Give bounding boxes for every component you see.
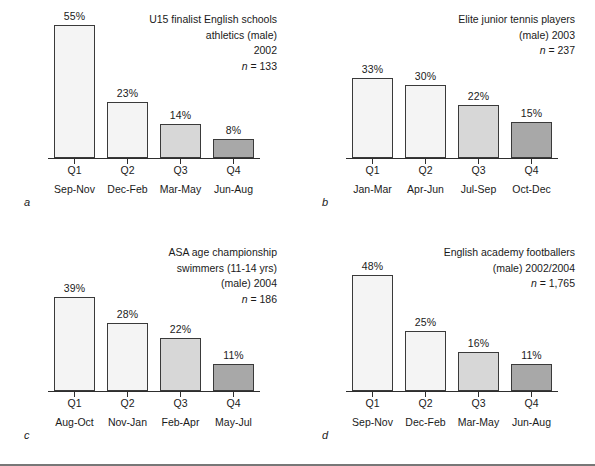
sample-size-symbol: n	[540, 44, 546, 56]
x-axis-label-group: Q1Sep-Nov	[48, 164, 101, 196]
bar	[160, 338, 201, 391]
x-axis-month-label: Mar-May	[154, 183, 207, 196]
bar-slot: 55%	[48, 14, 101, 158]
x-axis-c	[48, 391, 260, 392]
caption-line: (male) 2003	[397, 28, 575, 44]
bar	[458, 352, 499, 391]
x-axis-month-label: Aug-Oct	[48, 416, 101, 429]
x-axis-label-group: Q1Jan-Mar	[346, 164, 399, 196]
sample-size-label: n = 237	[397, 43, 575, 59]
x-axis-month-label: Apr-Jun	[399, 183, 452, 196]
bar-value-label: 16%	[452, 337, 505, 349]
panel-a: 55%23%14%8% Q1Sep-NovQ2Dec-FebQ3Mar-MayQ…	[0, 0, 297, 233]
x-axis-quarter-label: Q3	[452, 164, 505, 177]
bar-slot: 39%	[48, 247, 101, 391]
bar-value-label: 39%	[48, 282, 101, 294]
x-axis-month-label: Dec-Feb	[399, 416, 452, 429]
bar-value-label: 48%	[346, 260, 399, 272]
x-axis-quarter-label: Q2	[399, 164, 452, 177]
panel-caption-b: Elite junior tennis players(male) 2003n …	[397, 12, 575, 59]
bar	[54, 297, 95, 391]
bar-value-label: 11%	[505, 349, 558, 361]
x-axis-label-group: Q3Feb-Apr	[154, 397, 207, 429]
x-axis-month-label: Jun-Aug	[207, 183, 260, 196]
sample-size-symbol: n	[242, 60, 248, 72]
x-axis-month-label: Feb-Apr	[154, 416, 207, 429]
x-axis-label-group: Q2Dec-Feb	[399, 397, 452, 429]
bar	[213, 139, 254, 158]
x-axis-quarter-label: Q4	[505, 397, 558, 410]
x-axis-quarter-label: Q2	[101, 164, 154, 177]
bar	[107, 102, 148, 158]
bar-value-label: 28%	[101, 308, 154, 320]
bar-value-label: 22%	[452, 90, 505, 102]
x-axis-quarter-label: Q1	[48, 397, 101, 410]
caption-line: swimmers (11-14 yrs)	[99, 261, 277, 277]
x-axis-quarter-label: Q3	[452, 397, 505, 410]
x-axis-quarter-label: Q2	[101, 397, 154, 410]
x-axis-label-group: Q1Sep-Nov	[346, 397, 399, 429]
bar-value-label: 30%	[399, 70, 452, 82]
x-axis-label-group: Q1Aug-Oct	[48, 397, 101, 429]
x-axis-quarter-label: Q4	[207, 164, 260, 177]
bar-slot: 48%	[346, 247, 399, 391]
x-axis-month-label: Sep-Nov	[346, 416, 399, 429]
panel-b: 33%30%22%15% Q1Jan-MarQ2Apr-JunQ3Jul-Sep…	[298, 0, 595, 233]
bar	[511, 364, 552, 391]
bar	[352, 275, 393, 391]
bar	[213, 364, 254, 391]
x-axis-month-label: Jun-Aug	[505, 416, 558, 429]
caption-line: 2002	[99, 43, 277, 59]
sample-size-symbol: n	[531, 277, 537, 289]
sample-size-label: n = 1,765	[397, 276, 575, 292]
x-axis-month-label: May-Jul	[207, 416, 260, 429]
bar-value-label: 11%	[207, 349, 260, 361]
panel-letter-b: b	[322, 196, 328, 208]
bar-value-label: 15%	[505, 107, 558, 119]
panel-d: 48%25%16%11% Q1Sep-NovQ2Dec-FebQ3Mar-May…	[298, 233, 595, 466]
caption-line: English academy footballers	[397, 245, 575, 261]
x-axis-label-group: Q3Jul-Sep	[452, 164, 505, 196]
sample-size-label: n = 186	[99, 292, 277, 308]
bar	[405, 85, 446, 158]
bar	[405, 331, 446, 391]
x-axis-quarter-label: Q1	[48, 164, 101, 177]
sample-size-symbol: n	[242, 293, 248, 305]
x-axis-quarter-label: Q1	[346, 164, 399, 177]
panel-caption-a: U15 finalist English schoolsathletics (m…	[99, 12, 277, 74]
x-axis-label-group: Q3Mar-May	[154, 164, 207, 196]
x-axis-label-group: Q2Nov-Jan	[101, 397, 154, 429]
bar	[54, 25, 95, 158]
x-axis-quarter-label: Q1	[346, 397, 399, 410]
x-axis-month-label: Dec-Feb	[101, 183, 154, 196]
x-axis-quarter-label: Q2	[399, 397, 452, 410]
caption-line: Elite junior tennis players	[397, 12, 575, 28]
bar-value-label: 25%	[399, 316, 452, 328]
bar	[107, 323, 148, 391]
bar-value-label: 14%	[154, 109, 207, 121]
x-axis-month-label: Jan-Mar	[346, 183, 399, 196]
x-axis-d	[346, 391, 558, 392]
caption-line: athletics (male)	[99, 28, 277, 44]
x-axis-a	[48, 158, 260, 159]
x-axis-month-label: Mar-May	[452, 416, 505, 429]
bar-value-label: 22%	[154, 323, 207, 335]
x-axis-month-label: Sep-Nov	[48, 183, 101, 196]
x-axis-quarter-label: Q4	[505, 164, 558, 177]
caption-line: U15 finalist English schools	[99, 12, 277, 28]
x-axis-labels-b: Q1Jan-MarQ2Apr-JunQ3Jul-SepQ4Oct-Dec	[346, 164, 558, 210]
caption-line: (male) 2002/2004	[397, 261, 575, 277]
bar-slot: 33%	[346, 14, 399, 158]
x-axis-month-label: Nov-Jan	[101, 416, 154, 429]
x-axis-label-group: Q2Apr-Jun	[399, 164, 452, 196]
bar	[160, 124, 201, 158]
panel-letter-d: d	[322, 429, 328, 441]
sample-size-label: n = 133	[99, 59, 277, 75]
bar-value-label: 8%	[207, 124, 260, 136]
x-axis-label-group: Q3Mar-May	[452, 397, 505, 429]
bar-value-label: 33%	[346, 63, 399, 75]
x-axis-month-label: Jul-Sep	[452, 183, 505, 196]
bar	[352, 78, 393, 158]
panel-caption-d: English academy footballers(male) 2002/2…	[397, 245, 575, 292]
x-axis-label-group: Q4Jun-Aug	[207, 164, 260, 196]
